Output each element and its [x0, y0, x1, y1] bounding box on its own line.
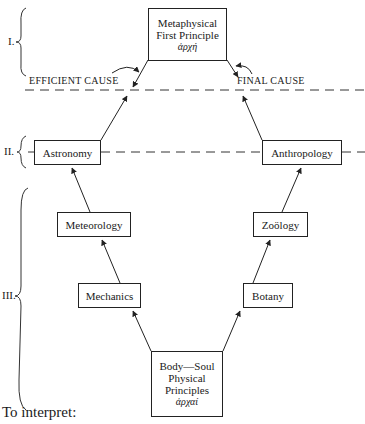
bottom-box-greek: ἀρχαί [176, 396, 198, 408]
level-label-I: I. [8, 35, 14, 47]
level-label-II: II. [4, 145, 14, 157]
botany-box: Botany [243, 283, 293, 308]
level-label-III: III. [2, 289, 16, 301]
top-box-greek: ἀρχή [178, 41, 197, 53]
final-cause-label: FINAL CAUSE [237, 75, 305, 86]
brace-II [17, 136, 26, 168]
astronomy-box: Astronomy [34, 140, 101, 165]
meteorology-label: Meteorology [66, 219, 123, 231]
anthropology-label: Anthropology [271, 147, 333, 159]
anthropology-box: Anthropology [262, 140, 342, 165]
mechanics-box: Mechanics [78, 283, 141, 308]
zoology-label: Zoölogy [262, 219, 299, 231]
top-box-line2: First Principle [156, 29, 219, 41]
efficient-cause-label: EFFICIENT CAUSE [29, 75, 119, 86]
meteorology-box: Meteorology [57, 212, 131, 237]
zoology-box: Zoölogy [253, 212, 308, 237]
astronomy-label: Astronomy [43, 147, 93, 159]
brace-I [16, 8, 26, 76]
metaphysical-first-principle-box: Metaphysical First Principle ἀρχή [148, 8, 227, 61]
bottom-box-line2: Physical [168, 372, 205, 384]
botany-label: Botany [252, 290, 284, 302]
bottom-box-line1: Body—Soul [159, 360, 214, 372]
bottom-box-line3: Principles [165, 384, 209, 396]
to-interpret-text: To interpret: [2, 404, 76, 421]
body-soul-physical-principles-box: Body—Soul Physical Principles ἀρχαί [151, 351, 223, 417]
top-box-line1: Metaphysical [158, 17, 217, 29]
mechanics-label: Mechanics [86, 290, 134, 302]
brace-III [15, 188, 28, 410]
